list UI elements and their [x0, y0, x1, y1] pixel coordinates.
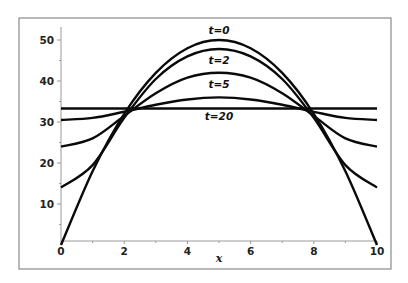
x-tick-label: 6	[247, 245, 254, 257]
y-tick-label: 20	[39, 157, 54, 169]
curve-label: t=5	[208, 78, 229, 90]
x-tick-label: 0	[57, 245, 64, 257]
x-axis-label: x	[215, 252, 223, 265]
y-tick-label: 50	[39, 34, 54, 46]
curve-label: t=0	[208, 24, 229, 36]
x-tick-label: 10	[370, 245, 385, 257]
y-tick-label: 10	[39, 198, 54, 210]
y-tick-label: 40	[39, 75, 54, 87]
x-tick-label: 2	[121, 245, 128, 257]
curve-label: t=2	[208, 54, 229, 66]
x-tick-label: 8	[310, 245, 317, 257]
y-tick-label: 30	[39, 116, 54, 128]
curve-label: t=20	[205, 110, 233, 122]
x-tick-label: 4	[184, 245, 191, 257]
chart: 10203040500246810 t=0t=2t=5t=20 x	[0, 0, 408, 283]
